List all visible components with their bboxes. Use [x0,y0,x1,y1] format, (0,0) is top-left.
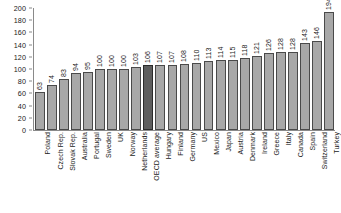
y-axis-tick-label: 40 [18,101,26,110]
x-axis-category-label: Slovak Rep. [69,132,76,171]
x-axis-category-label: Germany [189,132,196,162]
x-axis-category-label: Portugal [93,132,100,159]
y-axis-tick-label: 180 [14,16,26,25]
y-axis-tick-mark [29,130,32,131]
x-axis-category-label: Canada [297,132,304,157]
y-axis-tick-label: 160 [14,28,26,37]
bar [59,79,69,130]
bar-value-label: 143 [301,29,308,41]
bar-slot: 107 [154,8,166,130]
x-axis-category-label: Finland [177,132,184,156]
bar-slot: 103 [130,8,142,130]
x-axis-category-label: Italy [285,132,292,145]
y-axis-tick-mark [29,93,32,94]
x-axis-category-label: Greece [273,132,280,156]
bar [168,65,178,130]
bar [47,85,57,130]
bar-value-label: 63 [36,82,43,90]
bar-value-label: 107 [169,51,176,63]
x-axis-category-label: Netherlands [141,132,148,171]
bar [155,65,165,130]
plot-area: 6374839495100100100103106107107108110113… [34,8,335,130]
x-axis-category-label: Australia [81,132,88,160]
y-axis-tick-label: 140 [14,40,26,49]
bar-slot: 126 [263,8,275,130]
x-axis-category-label: Mexico [213,132,220,155]
bar-value-label: 100 [120,55,127,67]
x-axis-labels: PolandCzech Rep.Slovak Rep.AustraliaPort… [34,132,335,213]
bar [312,41,322,130]
bar [324,12,334,130]
y-axis-tick-mark [29,69,32,70]
y-axis-tick-label: 100 [14,65,26,74]
bar-slot: 114 [215,8,227,130]
bar-value-label: 107 [157,51,164,63]
bar-value-label: 103 [133,53,140,65]
bar-value-label: 106 [145,51,152,63]
bar-value-label: 194 [325,0,332,10]
x-axis-category-label: Austria [237,132,244,155]
bar-slot: 115 [227,8,239,130]
y-axis-tick-mark [29,8,32,9]
y-axis-tick-mark [29,117,32,118]
x-axis-category-label: Turkey [334,132,341,154]
bar [180,64,190,130]
bar-value-label: 118 [241,45,248,56]
bar [240,58,250,130]
y-axis-tick-mark [29,20,32,21]
bar-value-label: 95 [84,62,91,70]
bar [276,52,286,130]
x-axis-category-label: US [201,132,208,142]
y-axis-tick-label: 0 [22,126,26,135]
bar [228,60,238,130]
y-axis-tick-label: 120 [14,52,26,61]
y-axis: 020406080100120140160180200 [0,8,34,130]
bar-slot: 94 [70,8,82,130]
y-axis-tick-label: 60 [18,89,26,98]
x-axis-category-label: OECD average [153,132,160,181]
bar-slot: 128 [287,8,299,130]
y-axis-tick-mark [29,105,32,106]
x-axis-category-label: Switzerland [321,132,328,169]
bar [216,60,226,130]
y-axis-tick-label: 200 [14,4,26,13]
x-axis-category-label: Sweden [105,132,112,158]
bar-slot: 95 [82,8,94,130]
x-axis-category-label: Czech Rep. [57,132,64,170]
bar-value-label: 110 [193,49,200,60]
bar-slot: 143 [299,8,311,130]
bar [143,65,153,130]
bar-value-label: 74 [48,75,55,83]
bar-slot: 128 [275,8,287,130]
bar-value-label: 126 [265,39,272,51]
bar [107,69,117,130]
bar [95,69,105,130]
bar-value-label: 113 [205,48,212,59]
bar [192,63,202,130]
x-axis-category-label: Japan [225,132,232,152]
x-axis-category-label: Spain [309,132,316,150]
bar-value-label: 94 [72,63,79,71]
bar-value-label: 128 [277,38,284,50]
bar-slot: 107 [166,8,178,130]
bar-slot: 110 [191,8,203,130]
bar [119,69,129,130]
bar-value-label: 100 [108,55,115,67]
x-axis-category-label: Poland [45,132,52,154]
x-axis-category-label: Denmark [249,132,256,161]
bar-value-label: 146 [313,27,320,39]
y-axis-tick-mark [29,32,32,33]
bar-slot: 113 [203,8,215,130]
y-axis-tick-mark [29,81,32,82]
bar-value-label: 121 [253,42,260,54]
bar-slot: 121 [251,8,263,130]
bar-slot: 108 [178,8,190,130]
bar [83,72,93,130]
y-axis-tick-label: 20 [18,113,26,122]
bar-slot: 106 [142,8,154,130]
x-axis-category-label: Hungary [165,132,172,159]
bar-value-label: 128 [289,38,296,50]
bar [264,53,274,130]
bar [71,73,81,130]
